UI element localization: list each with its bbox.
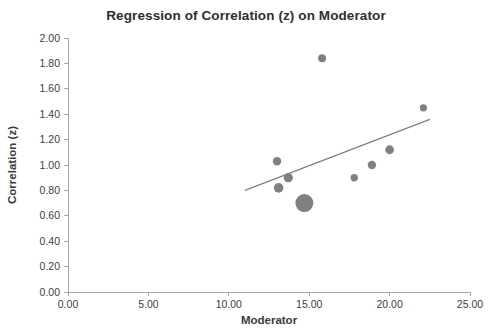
y-tick-label: 1.80 <box>40 57 61 69</box>
y-tick-label: 0.60 <box>40 209 61 221</box>
data-point-bubble <box>273 157 281 165</box>
x-tick-label: 25.00 <box>457 298 483 310</box>
regression-scatter-chart: Regression of Correlation (z) on Moderat… <box>0 0 492 329</box>
x-tick-label: 20.00 <box>376 298 402 310</box>
data-point-bubble <box>318 54 326 62</box>
y-tick-label: 2.00 <box>40 32 61 44</box>
data-point-bubble <box>284 173 293 182</box>
x-tick-label: 15.00 <box>296 298 322 310</box>
data-point-bubble <box>295 194 313 212</box>
data-point-bubble <box>420 104 427 111</box>
y-tick-label: 1.20 <box>40 133 61 145</box>
x-axis-title: Moderator <box>241 314 298 326</box>
data-point-bubble <box>274 183 284 193</box>
y-tick-label: 1.60 <box>40 82 61 94</box>
y-tick-label: 1.00 <box>40 159 61 171</box>
regression-trend-line <box>245 119 430 190</box>
x-tick-label: 0.00 <box>58 298 79 310</box>
data-point-bubble <box>351 174 358 181</box>
y-tick-label: 0.40 <box>40 235 61 247</box>
data-point-bubble <box>368 161 376 169</box>
x-tick-label: 5.00 <box>138 298 159 310</box>
y-tick-label: 1.40 <box>40 108 61 120</box>
y-axis-title: Correlation (z) <box>6 126 18 204</box>
data-point-group <box>273 54 427 212</box>
plot-canvas: 0.000.200.400.600.801.001.201.401.601.80… <box>0 0 492 329</box>
y-tick-label: 0.00 <box>40 286 61 298</box>
data-point-bubble <box>385 145 394 154</box>
x-tick-label: 10.00 <box>216 298 242 310</box>
y-axis-ticks: 0.000.200.400.600.801.001.201.401.601.80… <box>40 32 68 298</box>
y-tick-label: 0.20 <box>40 260 61 272</box>
y-tick-label: 0.80 <box>40 184 61 196</box>
x-axis-ticks: 0.005.0010.0015.0020.0025.00 <box>58 292 484 310</box>
